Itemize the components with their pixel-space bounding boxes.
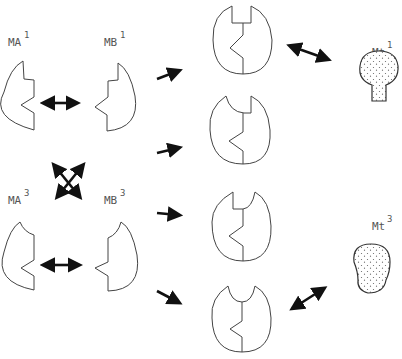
svg-text:3: 3 <box>24 188 29 198</box>
complex-1 <box>213 6 272 74</box>
complex-3 <box>212 192 271 261</box>
label-ma3: MA 3 <box>8 188 29 207</box>
label-mt3: Mt 3 <box>372 214 392 233</box>
label-ma1: MA 1 <box>8 30 29 49</box>
svg-text:MA: MA <box>8 194 22 207</box>
svg-text:MA: MA <box>8 36 22 49</box>
subunit-ma3 <box>2 222 34 290</box>
forward-arrow-3 <box>157 213 178 215</box>
svg-text:3: 3 <box>120 188 125 198</box>
subunit-mb1 <box>95 63 136 131</box>
complex-4 <box>212 286 271 352</box>
svg-text:Mt: Mt <box>372 220 385 233</box>
label-mb3: MB 3 <box>104 188 125 207</box>
binding-arrow-mt1 <box>296 48 327 59</box>
svg-text:MB: MB <box>104 194 118 207</box>
svg-text:MB: MB <box>104 36 118 49</box>
forward-arrow-1 <box>157 71 178 79</box>
forward-arrow-2 <box>157 148 178 153</box>
label-mb1: MB 1 <box>104 30 125 49</box>
binding-arrow-mt3 <box>298 289 323 305</box>
target-mt1 <box>360 51 398 101</box>
reaction-diagram: MA 1 MB 1 MA 3 MB 3 Mt 1 Mt 3 <box>0 0 402 359</box>
forward-arrow-4 <box>157 291 178 302</box>
svg-text:3: 3 <box>387 214 392 224</box>
svg-text:1: 1 <box>387 40 392 50</box>
svg-text:1: 1 <box>24 30 29 40</box>
complex-2 <box>210 96 270 164</box>
subunit-mb3 <box>95 222 138 291</box>
subunit-ma1 <box>1 61 34 130</box>
target-mt3 <box>354 244 390 293</box>
svg-text:1: 1 <box>120 30 125 40</box>
